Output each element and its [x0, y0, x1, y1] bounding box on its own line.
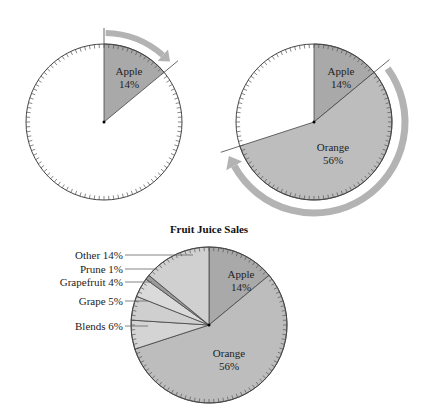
step2-orange-label: Orange	[317, 141, 349, 153]
pie-construction-diagram: Fruit Juice Sales Apple 14% Apple 14% Or…	[0, 0, 428, 415]
callout-grape: Grape 5%	[79, 295, 123, 307]
step2-pie-apple-orange	[221, 44, 405, 213]
final-apple-pct: 14%	[231, 281, 251, 293]
final-pie-fruit-juice-sales	[131, 247, 287, 403]
guide-line	[164, 61, 178, 72]
callout-blends: Blends 6%	[75, 320, 123, 332]
guide-line	[221, 146, 240, 152]
chart-title: Fruit Juice Sales	[170, 223, 249, 235]
step1-apple-label: Apple	[116, 65, 143, 77]
step2-apple-pct: 14%	[331, 78, 351, 90]
step1-pie-apple-only	[26, 28, 182, 200]
callout-grapefruit: Grapefruit 4%	[60, 276, 123, 288]
callout-other: Other 14%	[75, 249, 123, 261]
final-apple-label: Apple	[228, 268, 255, 280]
callout-prune: Prune 1%	[80, 263, 123, 275]
center-dot	[313, 121, 316, 124]
step1-apple-pct: 14%	[119, 78, 139, 90]
final-orange-label: Orange	[213, 347, 245, 359]
center-dot	[103, 121, 106, 124]
step2-apple-label: Apple	[328, 65, 355, 77]
final-orange-pct: 56%	[219, 360, 239, 372]
center-dot	[208, 324, 211, 327]
step2-orange-pct: 56%	[323, 154, 343, 166]
